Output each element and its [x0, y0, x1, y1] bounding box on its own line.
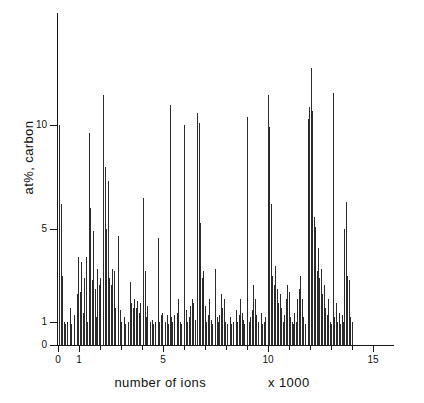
x-tick-minor: [331, 346, 332, 350]
x-tick-minor: [289, 346, 290, 350]
bar: [162, 313, 163, 345]
x-tick: [79, 346, 80, 352]
y-tick: [50, 229, 57, 230]
bar: [265, 317, 266, 345]
bar: [100, 278, 101, 345]
y-tick-label: 0: [0, 339, 47, 350]
x-tick: [58, 346, 59, 352]
bar: [174, 315, 175, 345]
y-tick-label: 10: [0, 119, 47, 130]
bar: [305, 324, 306, 345]
bar: [121, 322, 122, 345]
x-axis-caption: number of ions x 1000: [0, 375, 424, 390]
x-tick-label: 5: [160, 354, 166, 365]
x-tick-minor: [247, 346, 248, 350]
bar: [115, 308, 116, 345]
bar: [181, 324, 182, 345]
x-axis-label: number of ions: [114, 375, 206, 390]
bar: [195, 320, 196, 345]
y-tick-label: 5: [0, 223, 47, 234]
chart-figure: at%, carbon 01510 0151015 number of ions…: [0, 0, 424, 403]
bar: [233, 322, 234, 345]
bar: [333, 93, 334, 345]
bar: [352, 322, 353, 345]
bar: [247, 117, 248, 345]
bar: [170, 105, 171, 345]
y-tick: [50, 345, 57, 346]
bar: [67, 322, 68, 345]
x-tick-minor: [205, 346, 206, 350]
x-tick-minor: [226, 346, 227, 350]
bar: [71, 324, 72, 345]
x-tick-label: 10: [262, 354, 273, 365]
x-tick-label: 0: [55, 354, 61, 365]
x-tick: [373, 346, 374, 352]
bar: [147, 306, 148, 345]
x-tick-minor: [121, 346, 122, 350]
x-tick-minor: [100, 346, 101, 350]
y-tick-label: 1: [0, 316, 47, 327]
y-axis-label: at%, carbon: [21, 78, 36, 238]
y-tick: [50, 125, 57, 126]
bar: [227, 324, 228, 345]
x-tick-minor: [352, 346, 353, 350]
x-tick-label: 15: [367, 354, 378, 365]
bar: [258, 322, 259, 345]
bar: [155, 322, 156, 345]
bar: [74, 315, 75, 345]
bar: [140, 303, 141, 345]
x-axis-multiplier: x 1000: [268, 375, 309, 390]
bar: [125, 324, 126, 345]
bar: [212, 324, 213, 345]
x-tick-label: 1: [76, 354, 82, 365]
x-tick-minor: [142, 346, 143, 350]
y-tick: [50, 322, 57, 323]
bar: [244, 324, 245, 345]
x-tick: [268, 346, 269, 352]
x-tick: [163, 346, 164, 352]
x-tick-minor: [184, 346, 185, 350]
bar-series: [57, 13, 394, 345]
x-tick-minor: [310, 346, 311, 350]
